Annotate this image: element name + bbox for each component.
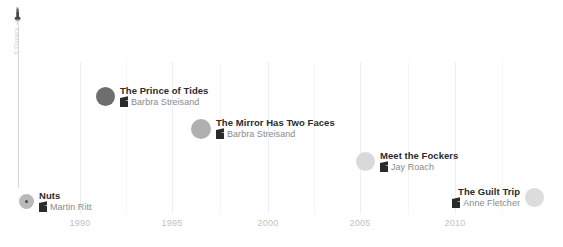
- film-entry[interactable]: Meet the FockersJay Roach: [356, 150, 458, 173]
- director-name: Barbra Streisand: [131, 97, 199, 108]
- film-title: The Prince of Tides: [120, 85, 208, 96]
- y-axis-group: 0 Oscars: [0, 0, 44, 200]
- x-axis-tick-label: 1995: [162, 218, 183, 228]
- gridline-minor: [408, 62, 409, 214]
- film-label-group: The Mirror Has Two FacesBarbra Streisand: [216, 117, 335, 140]
- director-row: Barbra Streisand: [120, 97, 208, 108]
- y-axis-line: [18, 26, 19, 188]
- clapperboard-icon: [380, 163, 388, 172]
- timeline-chart: 0 Oscars 19901995200020052010 NutsMartin…: [0, 0, 563, 247]
- film-marker[interactable]: [356, 152, 375, 171]
- film-label-group: The Guilt TripAnne Fletcher: [452, 186, 520, 209]
- x-axis-tick-label: 2005: [350, 218, 371, 228]
- film-label-group: Meet the FockersJay Roach: [380, 150, 458, 173]
- director-name: Barbra Streisand: [227, 129, 295, 140]
- clapperboard-icon: [452, 199, 460, 208]
- director-row: Barbra Streisand: [216, 129, 335, 140]
- film-entry[interactable]: The Prince of TidesBarbra Streisand: [96, 85, 208, 108]
- film-entry[interactable]: The Mirror Has Two FacesBarbra Streisand: [191, 117, 335, 140]
- director-name: Anne Fletcher: [463, 198, 520, 209]
- film-title: Meet the Fockers: [380, 150, 458, 161]
- film-label-group: NutsMartin Ritt: [39, 190, 92, 213]
- x-axis-tick-label: 2000: [258, 218, 279, 228]
- clapperboard-icon: [39, 203, 47, 212]
- film-title: The Guilt Trip: [458, 186, 520, 197]
- x-axis-tick-label: 2010: [445, 218, 466, 228]
- director-name: Jay Roach: [391, 162, 434, 173]
- clapperboard-icon: [120, 98, 128, 107]
- director-name: Martin Ritt: [50, 202, 92, 213]
- film-label-group: The Prince of TidesBarbra Streisand: [120, 85, 208, 108]
- x-axis-tick-label: 1990: [70, 218, 91, 228]
- film-title: The Mirror Has Two Faces: [216, 117, 335, 128]
- film-title: Nuts: [39, 190, 92, 201]
- gridline-major: [360, 62, 361, 214]
- film-marker[interactable]: [191, 119, 211, 139]
- film-entry[interactable]: The Guilt TripAnne Fletcher: [452, 186, 544, 209]
- director-row: Martin Ritt: [39, 202, 92, 213]
- film-entry[interactable]: NutsMartin Ritt: [19, 190, 92, 213]
- film-marker[interactable]: [96, 87, 115, 106]
- director-row: Anne Fletcher: [452, 198, 520, 209]
- selected-marker-dot: [25, 200, 28, 203]
- director-row: Jay Roach: [380, 162, 458, 173]
- film-marker[interactable]: [525, 188, 544, 207]
- clapperboard-icon: [216, 130, 224, 139]
- film-marker[interactable]: [19, 194, 34, 209]
